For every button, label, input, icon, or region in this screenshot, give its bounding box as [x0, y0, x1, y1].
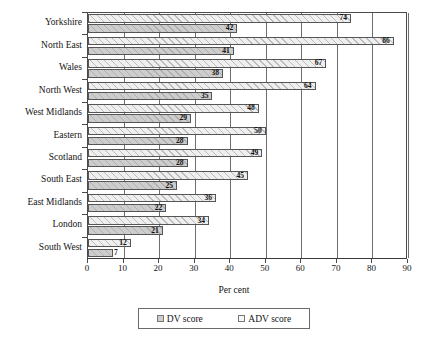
- y-axis-category-label: London: [0, 221, 82, 231]
- bar-value-label: 28: [176, 137, 184, 145]
- bar-dv: 7: [88, 249, 113, 258]
- y-axis-category-label: Yorkshire: [0, 18, 82, 28]
- bar-dv: 21: [88, 226, 163, 235]
- bar-dv: 41: [88, 47, 234, 56]
- bar-value-label: 36: [205, 194, 213, 202]
- gridline: [301, 13, 302, 258]
- legend-swatch-icon: [157, 315, 164, 322]
- bar-dv: 22: [88, 204, 166, 213]
- bar-adv: 48: [88, 104, 259, 113]
- bar-value-label: 38: [212, 70, 220, 78]
- y-axis-category-label: West Midlands: [0, 108, 82, 118]
- gridline: [337, 13, 338, 258]
- gridline: [266, 13, 267, 258]
- bar-adv: 74: [88, 14, 351, 23]
- x-axis-tick-label: 90: [403, 264, 412, 273]
- y-axis-category-label: South East: [0, 176, 82, 186]
- bar-value-label: 74: [340, 15, 348, 23]
- x-axis-tick-label: 60: [296, 264, 305, 273]
- bar-value-label: 50: [254, 127, 262, 135]
- x-axis-tick-label: 50: [260, 264, 269, 273]
- y-axis-category-label: Wales: [0, 63, 82, 73]
- bar-dv: 29: [88, 114, 191, 123]
- bar-value-label: 29: [180, 115, 188, 123]
- bar-adv: 86: [88, 37, 394, 46]
- bar-dv: 35: [88, 92, 212, 101]
- bar-value-label: 25: [165, 182, 173, 190]
- bar-value-label: 67: [315, 60, 323, 68]
- bar-chart: YorkshireNorth EastWalesNorth WestWest M…: [0, 0, 424, 339]
- y-axis-category-label: Scotland: [0, 153, 82, 163]
- bar-value-label: 22: [155, 204, 163, 212]
- legend-label: DV score: [167, 314, 203, 324]
- legend-swatch-icon: [238, 315, 245, 322]
- bar-adv: 12: [88, 239, 131, 248]
- bar-value-label: 64: [304, 82, 312, 90]
- bar-value-label: 7: [114, 249, 118, 257]
- chart-legend: DV scoreADV score: [138, 308, 310, 329]
- bar-value-label: 34: [197, 217, 205, 225]
- x-axis-tick-label: 40: [225, 264, 234, 273]
- x-axis-tick-labels: 0102030405060708090: [87, 264, 407, 278]
- bar-value-label: 49: [251, 149, 259, 157]
- bar-value-label: 12: [119, 239, 127, 247]
- bar-adv: 34: [88, 216, 209, 225]
- bar-dv: 28: [88, 137, 188, 146]
- x-axis-tick-label: 80: [367, 264, 376, 273]
- bar-value-label: 28: [176, 159, 184, 167]
- legend-label: ADV score: [248, 314, 291, 324]
- y-axis-category-label: East Midlands: [0, 198, 82, 208]
- bar-value-label: 35: [201, 92, 209, 100]
- bar-dv: 25: [88, 181, 177, 190]
- bar-adv: 64: [88, 82, 316, 91]
- bar-adv: 45: [88, 171, 248, 180]
- x-axis-tick-label: 70: [331, 264, 340, 273]
- y-axis-category-label: North West: [0, 86, 82, 96]
- gridline: [372, 13, 373, 258]
- bar-adv: 50: [88, 127, 266, 136]
- y-axis-category-label: South West: [0, 243, 82, 253]
- bar-dv: 42: [88, 24, 237, 33]
- y-axis-category-label: North East: [0, 41, 82, 51]
- bar-adv: 67: [88, 59, 326, 68]
- x-axis-tick-label: 30: [189, 264, 198, 273]
- bar-value-label: 86: [382, 37, 390, 45]
- bar-adv: 49: [88, 149, 262, 158]
- x-axis-tick-label: 20: [154, 264, 163, 273]
- bar-value-label: 21: [151, 227, 159, 235]
- y-axis: YorkshireNorth EastWalesNorth WestWest M…: [0, 12, 82, 259]
- x-axis-title: Per cent: [0, 285, 424, 295]
- bar-value-label: 42: [226, 25, 234, 33]
- bar-dv: 28: [88, 159, 188, 168]
- bar-value-label: 45: [237, 172, 245, 180]
- bar-value-label: 41: [222, 47, 230, 55]
- plot-area: 7442864167386435482950284928452536223421…: [87, 12, 407, 259]
- y-axis-category-label: Eastern: [0, 131, 82, 141]
- x-axis-tick-label: 10: [118, 264, 127, 273]
- gridline: [408, 13, 409, 258]
- bar-value-label: 48: [247, 105, 255, 113]
- bar-dv: 38: [88, 69, 223, 78]
- x-axis-tick-label: 0: [85, 264, 90, 273]
- legend-entry[interactable]: ADV score: [238, 314, 291, 324]
- bar-adv: 36: [88, 194, 216, 203]
- legend-entry[interactable]: DV score: [157, 314, 203, 324]
